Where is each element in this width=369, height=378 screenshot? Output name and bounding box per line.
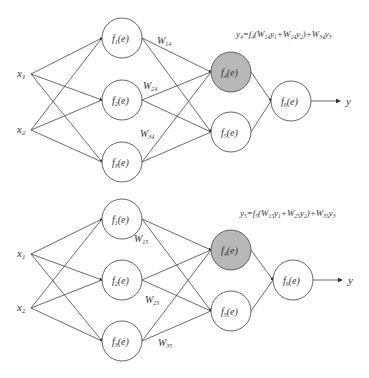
input-x2-label: x2 [16, 123, 26, 137]
node-f5: f5(e) [211, 291, 251, 331]
weight-w15: W15 [134, 233, 148, 245]
input-x1-label: x1 [16, 247, 25, 261]
neural-network-figure: x1 x2 f1(e) f2(e) f3(e) f4(e) f5(e) f6(e… [0, 0, 369, 378]
svg-text:f2(e): f2(e) [112, 275, 130, 287]
svg-text:f1(e): f1(e) [112, 214, 130, 226]
svg-text:f4(e): f4(e) [221, 245, 239, 257]
edges-hidden1-hidden2 [142, 219, 211, 341]
edges-input-hidden1 [31, 38, 102, 162]
network-bottom: x1 x2 f1(e) f2(e) f3(e) f4(e) f5(e) f6(e… [16, 199, 353, 361]
svg-text:f6(e): f6(e) [281, 96, 299, 108]
node-f2: f2(e) [102, 80, 142, 120]
network-top: x1 x2 f1(e) f2(e) f3(e) f4(e) f5(e) f6(e… [16, 18, 351, 182]
node-f3: f3(e) [102, 321, 142, 361]
weight-w14: W14 [157, 35, 171, 47]
node-f4-highlighted: f4(e) [211, 230, 251, 270]
formula-y4: y4=f4(W14y1+W24y2)+W34y3 [235, 29, 332, 40]
weight-w24: W24 [143, 80, 157, 92]
svg-text:f4(e): f4(e) [221, 67, 239, 79]
output-y-label: y [347, 274, 353, 286]
node-f6-output: f6(e) [271, 81, 311, 121]
svg-text:f5(e): f5(e) [221, 306, 239, 318]
svg-text:f2(e): f2(e) [112, 95, 130, 107]
weight-w34: W34 [140, 128, 154, 140]
svg-text:f3(e): f3(e) [112, 336, 130, 348]
node-f1: f1(e) [102, 18, 142, 58]
node-f4-highlighted: f4(e) [211, 52, 251, 92]
svg-text:f1(e): f1(e) [112, 33, 130, 45]
node-f5: f5(e) [211, 112, 251, 152]
output-y-label: y [345, 95, 351, 107]
edges-hidden1-hidden2 [142, 38, 211, 162]
input-x1-label: x1 [16, 67, 25, 81]
weight-w35: W35 [158, 337, 172, 349]
svg-text:f5(e): f5(e) [221, 127, 239, 139]
weight-w25: W25 [145, 294, 159, 306]
node-f2: f2(e) [102, 260, 142, 300]
edges-input-hidden1 [31, 219, 102, 341]
svg-text:f6(e): f6(e) [283, 275, 301, 287]
svg-text:f3(e): f3(e) [112, 157, 130, 169]
node-f6-output: f6(e) [273, 260, 313, 300]
input-x2-label: x2 [16, 301, 26, 315]
formula-y5: y5=f5(W15y1+W25y2)+W35y3 [239, 208, 336, 219]
node-f3: f3(e) [102, 142, 142, 182]
